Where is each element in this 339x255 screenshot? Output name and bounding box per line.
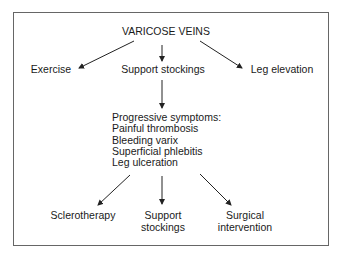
arrow-to-surgical-intervention bbox=[200, 174, 231, 205]
node-surgical-intervention: Surgical intervention bbox=[218, 210, 272, 233]
node-leg-elevation: Leg elevation bbox=[251, 64, 313, 76]
diagram-title: VARICOSE VEINS bbox=[122, 26, 210, 38]
node-label-line: Surgical bbox=[218, 210, 272, 222]
arrow-to-sclerotherapy bbox=[98, 175, 130, 205]
symptoms-block: Progressive symptoms: Painful thrombosis… bbox=[112, 112, 221, 168]
node-label-line: intervention bbox=[218, 222, 272, 234]
node-support-stockings: Support stockings bbox=[121, 64, 204, 76]
node-label-line: Sclerotherapy bbox=[51, 210, 116, 222]
arrow-to-leg-elevation bbox=[200, 41, 242, 68]
symptom-item: Painful thrombosis bbox=[112, 123, 221, 134]
node-label-line: Support bbox=[141, 210, 185, 222]
node-support-stockings-2: Support stockings bbox=[141, 210, 185, 233]
symptom-item: Leg ulceration bbox=[112, 157, 221, 168]
node-label-line: stockings bbox=[141, 222, 185, 234]
node-sclerotherapy: Sclerotherapy bbox=[51, 210, 116, 222]
node-exercise: Exercise bbox=[31, 64, 71, 76]
